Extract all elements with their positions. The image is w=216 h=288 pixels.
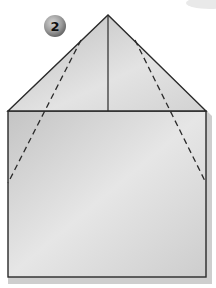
corner-shadow	[186, 0, 216, 9]
origami-diagram: 2	[0, 0, 216, 288]
paper-triangle	[8, 15, 206, 111]
diagram-canvas: 2	[0, 0, 216, 288]
step-number: 2	[50, 19, 59, 34]
paper-square	[8, 111, 206, 277]
step-badge: 2	[44, 15, 66, 37]
